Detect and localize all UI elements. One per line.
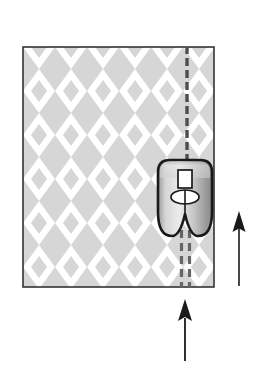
presser-foot-diagram: Presser foot stitching on argyle fabric: [0, 0, 263, 373]
figure-root: Presser foot stitching on argyle fabric: [0, 0, 263, 373]
needle-slot-opening: [178, 170, 192, 188]
feed-direction-arrow-bottom: [178, 299, 192, 361]
arrow-bottom-head: [178, 299, 192, 321]
feed-direction-arrow-right: [233, 211, 246, 286]
